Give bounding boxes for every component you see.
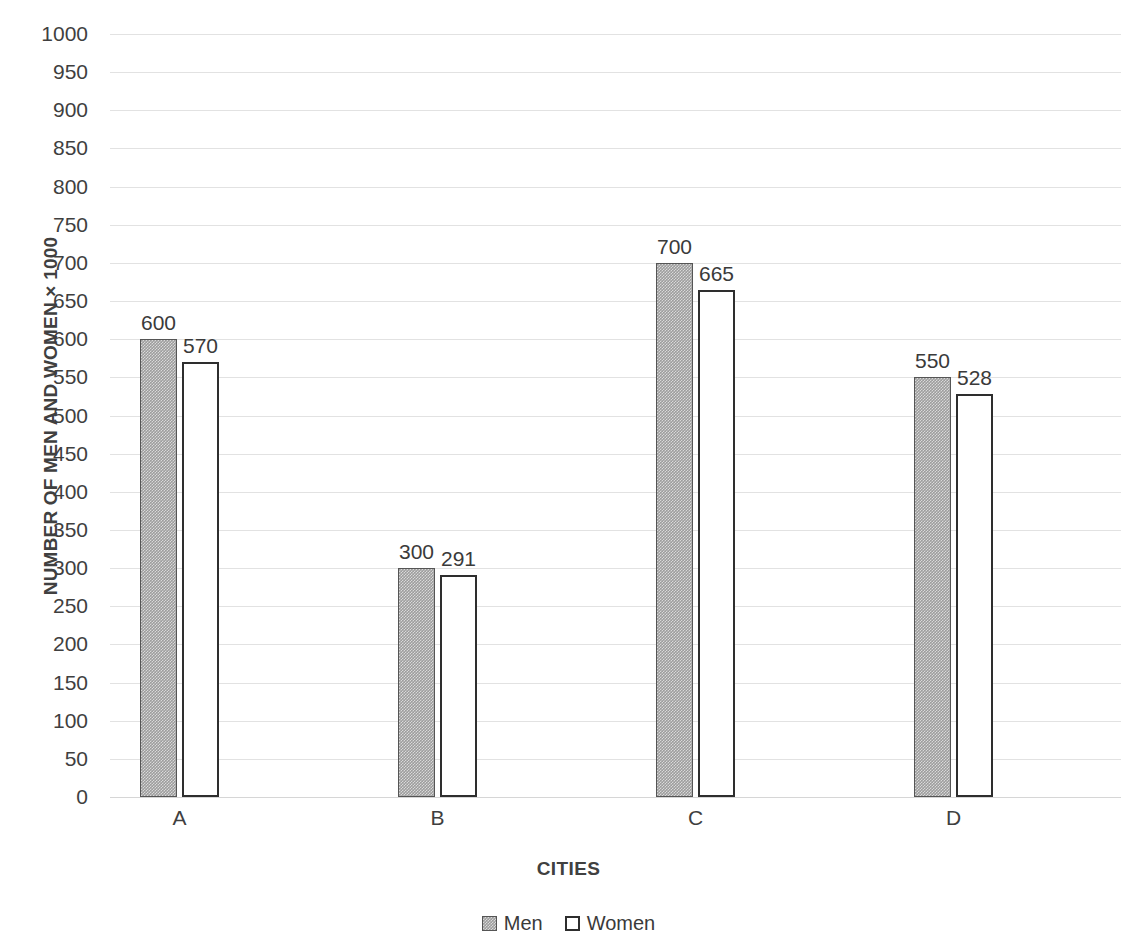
y-axis-tick-label: 350 xyxy=(53,518,88,542)
y-axis-tick-label: 450 xyxy=(53,442,88,466)
bar-c-men[interactable] xyxy=(656,263,693,797)
bar-d-women[interactable] xyxy=(956,394,993,797)
bar-chart: NUMBER OF MEN AND WOMEN × 1000 100095090… xyxy=(0,0,1137,946)
y-axis-tick-label: 400 xyxy=(53,480,88,504)
y-axis-tick-label: 700 xyxy=(53,251,88,275)
y-axis-tick-label: 850 xyxy=(53,136,88,160)
data-label-b-men: 300 xyxy=(399,540,434,564)
x-axis-tick-labels: ABCD xyxy=(110,806,1121,846)
data-label-d-men: 550 xyxy=(915,349,950,373)
x-axis-tick-label-d: D xyxy=(946,806,961,830)
x-axis-tick-label-a: A xyxy=(172,806,186,830)
plot-area: 600570300291700665550528 xyxy=(110,34,1121,797)
bar-b-women[interactable] xyxy=(440,575,477,797)
data-label-d-women: 528 xyxy=(957,366,992,390)
data-label-c-men: 700 xyxy=(657,235,692,259)
x-axis-tick-label-c: C xyxy=(688,806,703,830)
y-axis-tick-label: 500 xyxy=(53,404,88,428)
y-axis-tick-label: 200 xyxy=(53,632,88,656)
bar-a-women[interactable] xyxy=(182,362,219,797)
bar-c-women[interactable] xyxy=(698,290,735,797)
bars-layer: 600570300291700665550528 xyxy=(110,34,1121,797)
bar-a-men[interactable] xyxy=(140,339,177,797)
y-axis-tick-label: 0 xyxy=(76,785,88,809)
chart-legend: MenWomen xyxy=(0,912,1137,935)
y-axis-tick-labels: 1000950900850800750700650600550500450400… xyxy=(0,34,100,797)
y-axis-tick-label: 150 xyxy=(53,671,88,695)
legend-label: Women xyxy=(587,912,656,935)
legend-swatch-icon-men xyxy=(482,916,497,931)
bar-b-men[interactable] xyxy=(398,568,435,797)
y-axis-tick-label: 550 xyxy=(53,365,88,389)
y-axis-tick-label: 900 xyxy=(53,98,88,122)
x-axis-title: CITIES xyxy=(0,858,1137,880)
y-axis-tick-label: 50 xyxy=(65,747,88,771)
y-axis-tick-label: 300 xyxy=(53,556,88,580)
data-label-b-women: 291 xyxy=(441,547,476,571)
bar-d-men[interactable] xyxy=(914,377,951,797)
data-label-a-women: 570 xyxy=(183,334,218,358)
y-axis-tick-label: 250 xyxy=(53,594,88,618)
legend-label: Men xyxy=(504,912,543,935)
y-axis-tick-label: 100 xyxy=(53,709,88,733)
y-axis-tick-label: 1000 xyxy=(41,22,88,46)
data-label-a-men: 600 xyxy=(141,311,176,335)
legend-item-women[interactable]: Women xyxy=(565,912,656,935)
legend-swatch-icon-women xyxy=(565,916,580,931)
y-axis-tick-label: 950 xyxy=(53,60,88,84)
x-axis-tick-label-b: B xyxy=(430,806,444,830)
y-axis-tick-label: 650 xyxy=(53,289,88,313)
y-axis-tick-label: 750 xyxy=(53,213,88,237)
y-axis-tick-label: 600 xyxy=(53,327,88,351)
y-axis-tick-label: 800 xyxy=(53,175,88,199)
data-label-c-women: 665 xyxy=(699,262,734,286)
legend-item-men[interactable]: Men xyxy=(482,912,543,935)
gridline xyxy=(110,797,1121,798)
